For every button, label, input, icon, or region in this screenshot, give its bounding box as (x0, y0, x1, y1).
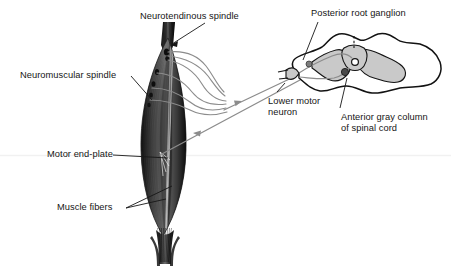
label-lower-motor-neuron-line2: neuron (268, 107, 297, 118)
label-anterior-gray-column-line1: Anterior gray column (341, 112, 428, 123)
leader-neurotendinous-spindle (172, 23, 205, 44)
label-motor-end-plate: Motor end-plate (47, 149, 113, 160)
muscle-striations (141, 38, 186, 238)
nerve-direction-arrows (193, 101, 242, 137)
label-lower-motor-neuron-line1: Lower motor (268, 96, 320, 107)
label-posterior-root-ganglion: Posterior root ganglion (311, 8, 406, 19)
label-anterior-gray-column-line2: of spinal cord (341, 123, 397, 134)
skeletal-muscle (141, 20, 186, 266)
label-neurotendinous-spindle: Neurotendinous spindle (140, 11, 239, 22)
posterior-root-ganglion-cell (306, 61, 312, 67)
anterior-horn-motor-neuron-cell (341, 68, 348, 75)
label-neuromuscular-spindle: Neuromuscular spindle (20, 70, 116, 81)
central-canal (352, 59, 359, 66)
spinal-cord-cross-section (278, 33, 441, 93)
lower-tendon (150, 228, 180, 266)
label-muscle-fibers: Muscle fibers (57, 202, 112, 213)
